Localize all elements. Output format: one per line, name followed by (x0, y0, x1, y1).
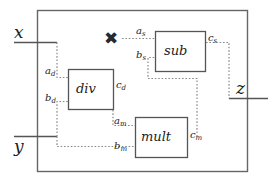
wire-x-to-a-d (57, 43, 68, 78)
cross-icon: ✖ (104, 30, 118, 47)
output-label-z: z (236, 80, 245, 97)
diagram-wires-layer (0, 0, 270, 182)
block-label-div: div (76, 82, 96, 95)
port-label-a-d: ad (45, 66, 55, 78)
port-label-b-d: bd (45, 93, 56, 105)
port-label-a-m: am (114, 116, 127, 128)
port-label-c-d: cd (116, 80, 126, 92)
block-diagram-canvas: ✖ x y z div sub mult ad bd cd as bs cs a… (0, 0, 270, 182)
port-label-c-m: cm (190, 130, 202, 142)
wire-c-s-to-z (206, 43, 229, 99)
port-label-c-s: cs (208, 33, 217, 45)
input-label-x: x (14, 24, 24, 41)
port-label-b-s: bs (136, 50, 146, 62)
input-label-y: y (14, 138, 24, 155)
port-label-a-s: as (136, 26, 146, 38)
block-label-sub: sub (164, 44, 187, 57)
wire-y-to-b-d (57, 102, 68, 137)
block-label-mult: mult (141, 130, 171, 143)
port-label-b-m: bm (114, 141, 127, 153)
